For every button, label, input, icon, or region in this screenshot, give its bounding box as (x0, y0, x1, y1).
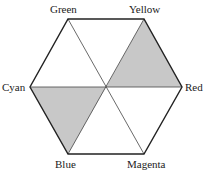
label-cyan: Cyan (2, 81, 25, 93)
label-blue: Blue (55, 158, 76, 170)
shaded-triangle-yellow-red (106, 19, 182, 87)
shaded-triangle-cyan-blue (30, 87, 106, 154)
hexagon-diagram (0, 0, 210, 174)
label-magenta: Magenta (127, 158, 165, 170)
label-red: Red (185, 81, 203, 93)
label-yellow: Yellow (129, 3, 160, 15)
label-green: Green (50, 3, 77, 15)
